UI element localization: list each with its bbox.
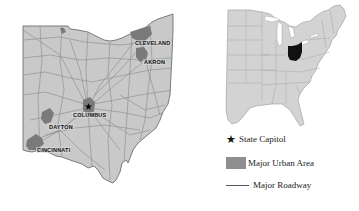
- city-label-akron: AKRON: [143, 59, 166, 65]
- legend-item-state-capitol: ★ State Capitol: [226, 134, 286, 144]
- roadway-line-icon: [226, 185, 249, 186]
- us-locator-map: [226, 5, 346, 126]
- city-label-cincinnati: CINCINNATI: [36, 147, 71, 153]
- legend-item-major-roadway: Major Roadway: [226, 180, 311, 190]
- legend-label: State Capitol: [239, 134, 286, 144]
- legend-label: Major Urban Area: [248, 158, 314, 168]
- legend-label: Major Roadway: [253, 180, 311, 190]
- figure: CLEVELAND AKRON COLUMBUS DAYTON CINCINNA…: [0, 0, 359, 211]
- star-icon: ★: [226, 134, 238, 144]
- urban-area-swatch-icon: [226, 157, 246, 169]
- legend-item-major-urban-area: Major Urban Area: [226, 157, 314, 169]
- city-label-columbus: COLUMBUS: [72, 112, 107, 118]
- city-label-dayton: DAYTON: [48, 124, 74, 130]
- city-label-cleveland: CLEVELAND: [134, 40, 171, 46]
- eastern-us-shape: [226, 5, 346, 126]
